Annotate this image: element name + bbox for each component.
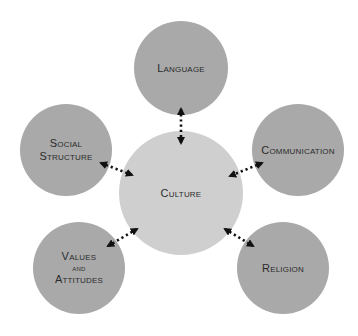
diagram-canvas (0, 0, 358, 336)
structure-label-text: Structure (39, 150, 92, 163)
culture-diagram: Culture Language Social Structure Commun… (0, 0, 358, 336)
node-label-culture: Culture (161, 187, 202, 200)
language-label-text: Language (157, 62, 205, 75)
node-label-values-and-attitudes: Values and Attitudes (55, 250, 103, 286)
node-label-language: Language (157, 62, 205, 75)
values-label-text: Values (55, 250, 103, 263)
religion-label-text: Religion (262, 262, 304, 275)
attitudes-label-text: Attitudes (55, 273, 103, 286)
node-label-social-structure: Social Structure (39, 137, 92, 162)
social-label-text: Social (39, 137, 92, 150)
node-label-religion: Religion (262, 262, 304, 275)
node-label-communication: Communication (261, 144, 335, 157)
culture-label-text: Culture (161, 187, 202, 200)
communication-label-text: Communication (261, 144, 335, 157)
and-label-text: and (55, 263, 103, 273)
